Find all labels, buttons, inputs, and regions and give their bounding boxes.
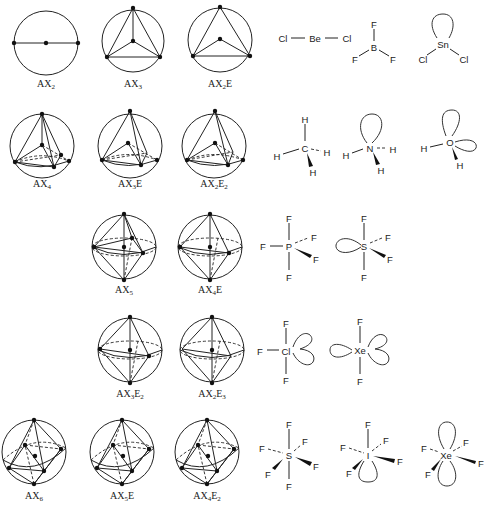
geometry-ax6: AX6 (2, 418, 66, 503)
svg-text:S: S (286, 450, 292, 461)
geometry-ax2e2: AX2E2 (182, 109, 246, 191)
svg-text:H: H (390, 144, 397, 155)
svg-text:F: F (385, 232, 391, 243)
molecule-xef4: Xe F F F F (421, 422, 484, 486)
geometry-label: AX2 (37, 78, 55, 91)
molecule-ch4: H C H H H (274, 114, 331, 178)
svg-text:F: F (340, 442, 346, 453)
svg-text:F: F (383, 435, 389, 446)
svg-text:C: C (302, 143, 309, 154)
svg-text:H: H (421, 143, 428, 154)
vsepr-figure: AX2 AX3 AX2E Cl Be Cl F B F F (0, 0, 491, 505)
svg-text:H: H (343, 150, 350, 161)
geometry-ax2e3: AX2E3 (180, 315, 244, 401)
geometry-label: AX2E3 (198, 388, 226, 401)
svg-text:P: P (286, 241, 292, 252)
svg-text:Xe: Xe (440, 450, 452, 461)
molecule-if5: F I F F F F (340, 419, 403, 483)
svg-text:H: H (324, 147, 331, 158)
svg-text:F: F (286, 481, 292, 492)
svg-text:H: H (274, 151, 281, 162)
svg-text:F: F (286, 213, 292, 224)
svg-text:Cl: Cl (419, 54, 428, 65)
svg-text:F: F (365, 419, 371, 430)
svg-text:F: F (352, 54, 358, 65)
svg-text:F: F (463, 437, 469, 448)
svg-text:F: F (390, 54, 396, 65)
geometry-label: AX3 (124, 78, 142, 91)
geometry-ax2e: AX2E (188, 5, 252, 91)
svg-text:H: H (310, 167, 317, 178)
geometry-ax5e: AX5E (90, 418, 154, 503)
svg-text:F: F (361, 272, 367, 283)
svg-text:O: O (446, 137, 453, 148)
svg-text:F: F (313, 461, 319, 472)
molecule-sf4: S F F F F (336, 213, 393, 283)
clipped-caption (290, 497, 490, 505)
svg-text:Cl: Cl (279, 33, 288, 44)
svg-text:F: F (387, 254, 393, 265)
geometry-label: AX4 (33, 178, 51, 191)
svg-text:F: F (259, 443, 265, 454)
geometry-ax3e2: AX3E2 (98, 315, 162, 401)
svg-text:Be: Be (309, 33, 321, 44)
svg-text:Cl: Cl (460, 54, 469, 65)
molecule-bf3: F B F F (352, 19, 396, 65)
svg-text:B: B (371, 42, 377, 53)
molecule-pf5: F P F F F F (260, 213, 319, 283)
svg-text:F: F (421, 443, 427, 454)
svg-text:Cl: Cl (343, 33, 352, 44)
geometry-label: AX3E (118, 178, 142, 191)
geometry-ax3: AX3 (102, 6, 164, 91)
svg-text:F: F (283, 375, 289, 386)
geometry-ax3e: AX3E (98, 109, 162, 191)
svg-text:F: F (313, 254, 319, 265)
geometry-label: AX2E (208, 78, 232, 91)
svg-text:F: F (357, 316, 363, 327)
geometry-label: AX6 (25, 490, 43, 503)
geometry-label: AX4E (198, 284, 222, 297)
svg-text:F: F (371, 19, 377, 30)
geometry-label: AX5E (110, 490, 134, 503)
svg-text:N: N (367, 143, 374, 154)
geometry-ax4: AX4 (10, 112, 74, 191)
svg-text:Sn: Sn (437, 39, 449, 50)
geometry-label: AX5 (115, 284, 133, 297)
svg-text:H: H (457, 160, 464, 171)
geometry-ax5: AX5 (92, 212, 156, 297)
svg-text:F: F (265, 469, 271, 480)
molecule-sncl2: Sn Cl Cl (419, 14, 469, 65)
svg-text:H: H (378, 165, 385, 176)
svg-text:I: I (367, 450, 370, 461)
molecule-sf6: F S F F F F F (259, 419, 319, 492)
geometry-ax2: AX2 (12, 11, 80, 91)
molecule-h2o: O H H (421, 110, 477, 171)
svg-text:F: F (425, 469, 431, 480)
svg-text:F: F (283, 318, 289, 329)
molecule-nh3: N H H H (343, 114, 397, 176)
geometry-label: AX2E2 (200, 178, 228, 191)
svg-text:F: F (260, 241, 266, 252)
molecule-xef2: F Xe F (330, 316, 389, 387)
svg-text:H: H (302, 114, 309, 125)
svg-text:F: F (257, 346, 263, 357)
svg-text:F: F (311, 232, 317, 243)
svg-text:F: F (286, 272, 292, 283)
svg-text:F: F (346, 468, 352, 479)
geometry-label: AX3E2 (116, 388, 144, 401)
svg-text:F: F (361, 213, 367, 224)
geometry-label: AX4E2 (193, 490, 221, 503)
svg-text:F: F (302, 436, 308, 447)
svg-text:Cl: Cl (282, 346, 291, 357)
geometry-ax4e: AX4E (178, 212, 242, 297)
atom: F (397, 456, 403, 467)
svg-text:F: F (357, 376, 363, 387)
molecule-clf3: F Cl F F (257, 318, 314, 386)
svg-text:F: F (286, 419, 292, 430)
molecule-becl2: Cl Be Cl (279, 33, 352, 44)
geometry-ax4e2: AX4E2 (175, 418, 239, 503)
svg-text:Xe: Xe (354, 345, 366, 356)
svg-text:S: S (361, 241, 367, 252)
svg-text:F: F (478, 458, 484, 469)
